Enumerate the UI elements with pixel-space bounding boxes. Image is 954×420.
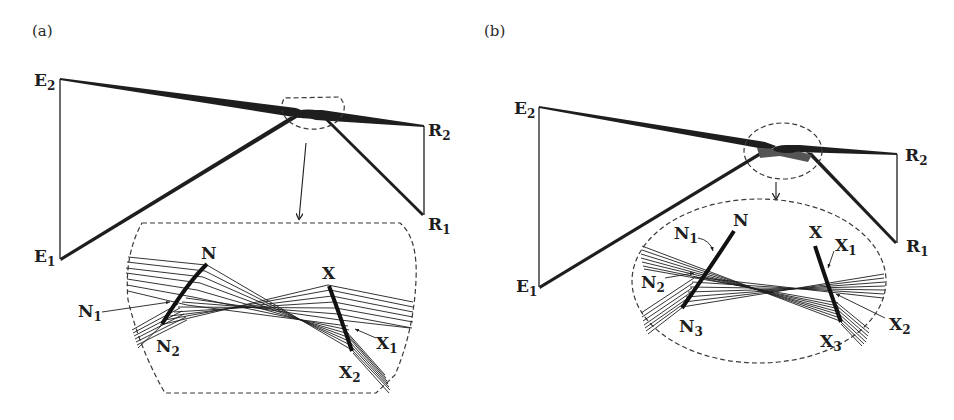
label-R1-a: R1 [428,216,451,236]
label-X1-a: X1 [376,335,398,355]
label-X3-b: X3 [820,333,842,353]
label-X-b: X [809,224,822,241]
label-X-a: X [322,265,335,282]
label-R2-b: R2 [905,147,928,167]
label-E1-a: E1 [34,248,55,268]
panel-a-X1-pointer [355,329,376,338]
label-N3-b: N3 [679,318,703,338]
panel-a-tag: (a) [32,22,53,40]
label-E2-b: E2 [514,100,535,120]
panel-a-zoom-arrow [299,143,306,219]
label-N-b: N [733,212,749,229]
panel-a-N1-pointer [102,302,170,312]
label-N2-b: N2 [641,274,665,294]
label-N-a: N [201,245,217,262]
panel-b-inset-frame [632,199,886,363]
panel-b-inset-rays [641,246,885,346]
label-R2-a: R2 [428,122,451,142]
diagram-canvas [0,0,954,420]
figure-stage: (a) E2 E1 R2 R1 N N1 N2 X X1 X2 (b) E2 E… [0,0,954,420]
label-R1-b: R1 [906,238,929,258]
panel-b-X1-pointer [828,251,834,268]
label-X1-b: X1 [835,237,857,257]
panel-b-tag: (b) [484,22,505,40]
label-N1-a: N1 [78,303,102,323]
label-N2-a: N2 [156,338,180,358]
label-N1-b: N1 [674,225,698,245]
panel-b-rays [539,106,897,289]
label-X2-a: X2 [339,364,361,384]
label-E2-a: E2 [34,72,55,92]
panel-a-inset-rays [126,257,413,393]
panel-a-rays [60,78,424,261]
label-E1-b: E1 [516,278,537,298]
label-X2-b: X2 [889,316,911,336]
panel-b-N1-pointer [698,238,713,251]
